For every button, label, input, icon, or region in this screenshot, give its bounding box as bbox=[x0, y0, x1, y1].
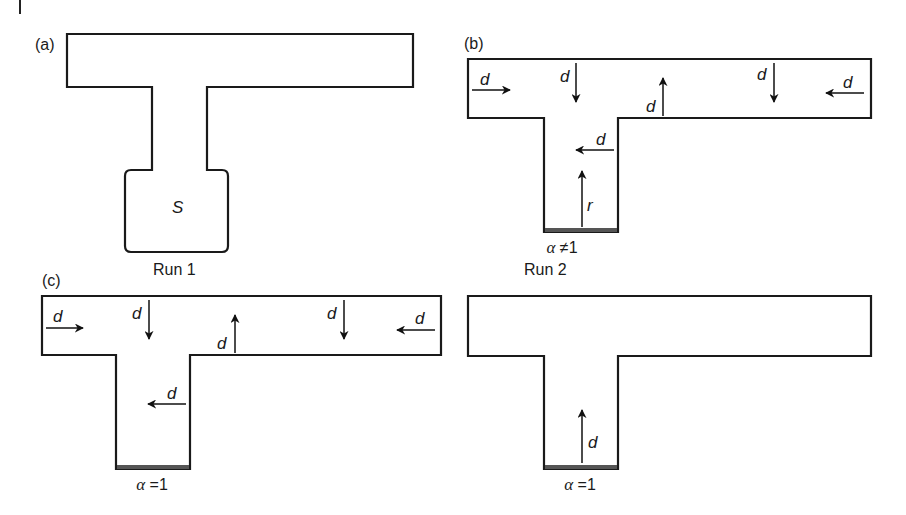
panel-label-c: (c) bbox=[42, 272, 61, 289]
arrow-label: d bbox=[415, 309, 425, 328]
source-label: S bbox=[172, 198, 184, 217]
t-geometry bbox=[42, 296, 441, 469]
panel-a: (a) S Run 1 bbox=[35, 34, 413, 278]
arrow-label: d bbox=[327, 304, 337, 323]
arrow-label: d bbox=[167, 384, 177, 403]
arrow-label: d bbox=[588, 433, 598, 452]
boundary-condition-label: α =1 bbox=[136, 475, 168, 494]
panel-b: (b) d d d d d d r α ≠1 Run 2 bbox=[464, 35, 871, 278]
panel-d: d α =1 bbox=[468, 296, 871, 494]
panel-label-b: (b) bbox=[464, 35, 484, 52]
boundary-condition-label: α ≠1 bbox=[546, 238, 577, 257]
t-geometry-with-source bbox=[67, 34, 413, 252]
arrow-label: d bbox=[757, 65, 767, 84]
panel-label-a: (a) bbox=[35, 36, 55, 53]
t-junction-figure: (a) S Run 1 (b) d d d d d d r α ≠1 Run 2 bbox=[0, 0, 906, 515]
arrow-label: d bbox=[560, 67, 570, 86]
boundary-condition-label: α =1 bbox=[564, 475, 596, 494]
caption-run-2: Run 2 bbox=[524, 261, 567, 278]
arrow-label: d bbox=[646, 97, 656, 116]
t-geometry bbox=[468, 59, 871, 232]
t-geometry bbox=[468, 296, 871, 469]
caption-run-1: Run 1 bbox=[153, 261, 196, 278]
arrow-label: r bbox=[587, 196, 594, 215]
arrow-label: d bbox=[53, 307, 63, 326]
panel-c: (c) d d d d d d α =1 bbox=[42, 272, 441, 494]
arrow-label: d bbox=[596, 130, 606, 149]
arrow-label: d bbox=[217, 334, 227, 353]
arrow-label: d bbox=[132, 304, 142, 323]
arrow-label: d bbox=[480, 70, 490, 89]
arrow-label: d bbox=[843, 73, 853, 92]
